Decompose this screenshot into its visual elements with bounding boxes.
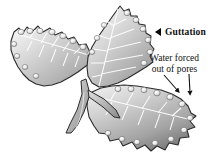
guttation-label: Guttation	[165, 27, 206, 38]
left-triangle-pointer-icon	[155, 28, 161, 36]
pores-label-line1: Water forced	[150, 53, 199, 64]
leaf-illustration	[0, 0, 219, 156]
leaflet-left	[11, 26, 95, 86]
leaflet-right	[87, 85, 196, 151]
guttation-annotation: Guttation	[155, 27, 206, 38]
pores-label-line2: out of pores	[150, 64, 199, 75]
guttation-figure: Guttation Water forced out of pores	[0, 0, 219, 156]
leaflet-center	[87, 6, 154, 87]
pores-annotation: Water forced out of pores	[150, 53, 199, 74]
